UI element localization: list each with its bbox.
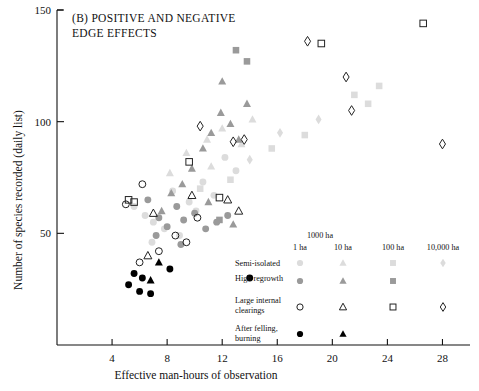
x-tick-label: 16 (272, 352, 284, 364)
data-point-square (376, 83, 383, 90)
y-axis-label: Number of species recorded (daily list) (12, 110, 25, 290)
data-point-square (233, 47, 240, 54)
data-point-triangle (203, 135, 211, 142)
data-point-square-open (420, 20, 427, 27)
data-point-triangle (226, 120, 234, 127)
data-point-diamond (247, 155, 253, 165)
data-point-square (302, 132, 309, 139)
series-high-regrowth-100-ha (216, 47, 250, 223)
figure-panel: 481216202428 50100150 (B) POSITIVE AND N… (0, 0, 479, 391)
legend: 1000 ha 1 ha 10 ha 100 ha 10,000 ha Semi… (235, 231, 460, 343)
legend-header-100ha: 100 ha (382, 243, 404, 252)
data-point-square (227, 176, 234, 183)
data-point-diamond-open (343, 72, 349, 82)
data-point-triangle-filled (155, 258, 163, 265)
data-point-diamond-open (197, 121, 203, 131)
data-point-circle-filled (166, 266, 173, 273)
data-point-circle (222, 154, 229, 161)
data-point-circle-open (297, 304, 303, 310)
data-point-circle-open (136, 259, 143, 266)
data-point-circle (202, 225, 209, 232)
data-point-diamond (440, 259, 445, 268)
scatter-plot: 481216202428 50100150 (B) POSITIVE AND N… (0, 0, 479, 391)
data-point-circle (144, 196, 151, 203)
x-axis-label: Effective man-hours of observation (115, 369, 278, 381)
data-point-circle (164, 223, 171, 230)
legend-row-label-high-regrowth: High regrowth (235, 274, 283, 283)
data-point-triangle (166, 169, 174, 176)
data-point-diamond (316, 115, 322, 125)
data-point-circle (150, 219, 157, 226)
legend-row-label-after-felling-2: burning (235, 334, 260, 343)
series-after-felling-burning-10-ha (147, 258, 163, 283)
x-tick-label: 12 (217, 352, 228, 364)
data-point-triangle (217, 109, 225, 116)
data-point-circle (186, 199, 193, 206)
data-point-circle-open (122, 201, 129, 208)
data-point-square (268, 145, 275, 152)
data-point-triangle (182, 149, 190, 156)
data-point-circle (224, 212, 231, 219)
data-point-square (197, 185, 204, 192)
data-point-square-open (318, 40, 325, 47)
data-point-circle (173, 203, 180, 210)
data-point-diamond (277, 128, 283, 138)
legend-header-10000ha: 10,000 ha (427, 243, 460, 252)
y-tick-label: 100 (35, 116, 52, 128)
legend-header-1ha: 1 ha (293, 243, 307, 252)
data-point-triangle (207, 162, 215, 169)
data-point-square-open (390, 304, 396, 310)
legend-row-label-after-felling: After felling, (235, 324, 278, 333)
y-tick-label: 150 (35, 4, 52, 16)
data-point-triangle (339, 277, 346, 284)
data-point-triangle-open (144, 251, 152, 258)
data-point-circle (153, 232, 160, 239)
data-point-circle-filled (131, 270, 138, 277)
series-after-felling-burning-1-ha (125, 266, 253, 297)
data-point-circle (297, 278, 303, 284)
series-semi-isolated-10-ha (166, 115, 257, 176)
legend-header-1ha-a: 1000 ha (307, 231, 334, 240)
data-point-circle (180, 216, 187, 223)
data-point-circle-open (183, 239, 190, 246)
data-point-circle-filled (139, 275, 146, 282)
x-tick-label: 8 (164, 352, 170, 364)
series-large-internal-clearings-10-ha (144, 191, 243, 259)
y-axis-ticks: 50100150 (35, 4, 65, 239)
legend-row-label-large-internal: Large internal (235, 296, 282, 305)
data-point-diamond-open (305, 36, 311, 46)
data-point-triangle (204, 198, 212, 205)
data-point-triangle-open (235, 207, 243, 214)
y-tick-label: 50 (40, 227, 52, 239)
x-axis-ticks: 481216202428 (109, 339, 448, 364)
data-point-circle (297, 331, 303, 337)
legend-symbols (297, 259, 446, 337)
legend-row-label-semi-isolated: Semi-isolated (235, 259, 280, 268)
data-point-circle (149, 239, 156, 246)
data-point-triangle-open (188, 191, 196, 198)
data-point-circle-filled (125, 281, 132, 288)
data-point-square (390, 260, 396, 266)
axis-lines (57, 10, 470, 345)
legend-header-10ha: 10 ha (334, 243, 352, 252)
data-point-circle (142, 212, 149, 219)
data-point-triangle (207, 129, 215, 136)
data-point-square-open (186, 159, 193, 166)
data-point-circle (131, 203, 138, 210)
data-point-circle (199, 179, 206, 186)
panel-title-line2: EDGE EFFECTS (72, 27, 157, 39)
panel-title-line1: (B) POSITIVE AND NEGATIVE (72, 12, 236, 25)
data-point-triangle (339, 259, 346, 266)
data-point-square (351, 92, 358, 99)
data-point-triangle (158, 207, 166, 214)
series-large-internal-clearings-1-ha (122, 181, 200, 266)
series-semi-isolated-100-ha (197, 83, 383, 192)
data-point-circle-filled (136, 288, 143, 295)
x-tick-label: 24 (382, 352, 394, 364)
data-point-diamond-open (440, 303, 445, 312)
x-tick-label: 20 (327, 352, 339, 364)
data-point-triangle (218, 124, 226, 131)
data-point-triangle (229, 220, 237, 227)
data-point-square (216, 217, 223, 224)
data-point-triangle-open (339, 303, 346, 310)
